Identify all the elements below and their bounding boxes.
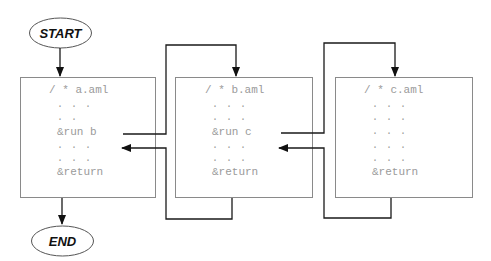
box-b-line-4: . . . — [212, 140, 247, 151]
box-b-line-3: &run c — [212, 126, 252, 138]
box-c-line-6: &return — [372, 166, 418, 178]
box-c-line-1: . . . — [372, 99, 407, 110]
box-a-line-1: . . . — [57, 99, 92, 110]
box-b-line-5: . . . — [212, 153, 247, 164]
box-a-aml: / * a.aml . . . . . &run b . . . . . . &… — [21, 78, 156, 198]
box-b-line-1: . . . — [212, 99, 247, 110]
box-b-line-2: . . . — [212, 112, 247, 123]
box-b-line-0: / * b.aml — [205, 84, 264, 96]
box-b-line-6: &return — [212, 166, 258, 178]
box-a-line-5: . . . — [57, 153, 92, 164]
box-c-line-3: . . . — [372, 126, 407, 137]
end-terminal: END — [32, 226, 94, 256]
box-a-line-4: . . . — [57, 140, 92, 151]
box-c-line-5: . . . — [372, 153, 407, 164]
box-c-line-4: . . . — [372, 140, 407, 151]
start-terminal: START — [30, 18, 92, 48]
end-label: END — [49, 234, 77, 249]
box-c-line-0: / * c.aml — [364, 84, 423, 96]
box-a-line-6: &return — [57, 166, 103, 178]
box-a-line-0: / * a.aml — [49, 84, 108, 96]
box-c-aml: / * c.aml . . . . . . . . . . . . . . . … — [336, 78, 473, 198]
amlflow-diagram: START / * a.aml . . . . . &run b . . . .… — [0, 0, 491, 261]
box-a-line-3: &run b — [57, 126, 97, 138]
start-label: START — [39, 26, 82, 41]
box-c-line-2: . . . — [372, 112, 407, 123]
box-a-line-2: . . — [57, 112, 78, 123]
box-b-aml: / * b.aml . . . . . . &run c . . . . . .… — [176, 78, 313, 198]
